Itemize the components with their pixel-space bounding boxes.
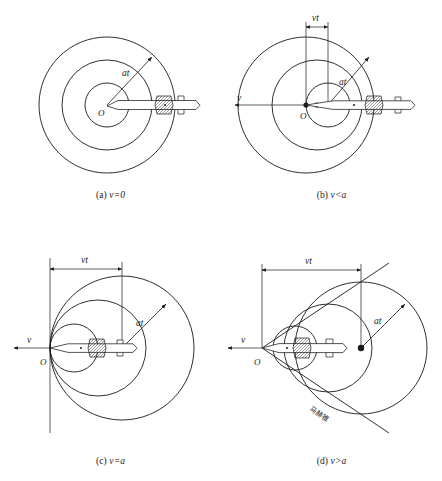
panel-d-caption-prefix: (d)	[317, 456, 328, 466]
panel-c-drawing: vt v at O	[0, 238, 221, 453]
panel-b-caption-prefix: (b)	[317, 190, 328, 200]
panel-d: vt v at 马赫锥 O (d) v>a	[221, 238, 442, 478]
origin-label: O	[300, 111, 307, 121]
aircraft-fuselage	[107, 101, 200, 110]
panel-b: vt v at O (b) v<a	[221, 0, 442, 240]
origin-label: O	[98, 108, 105, 118]
aircraft-center-dot	[164, 104, 166, 106]
aircraft-fuselage	[306, 101, 415, 110]
velocity-label-v: v	[241, 335, 246, 345]
distance-label-vt: vt	[81, 255, 88, 265]
radius-label-at: at	[339, 77, 347, 87]
aircraft-center-dot	[286, 347, 288, 349]
panel-c-caption-expr: v=a	[109, 456, 125, 466]
aircraft-icon	[50, 339, 137, 357]
aircraft-main-wing	[365, 96, 383, 114]
panel-d-caption: (d) v>a	[221, 456, 442, 466]
panel-c-caption-prefix: (c)	[96, 456, 107, 466]
origin-label: O	[40, 357, 47, 367]
distance-label-vt: vt	[312, 13, 319, 23]
mach-cone-label: 马赫锥	[308, 404, 330, 423]
panel-c-caption: (c) v=a	[0, 456, 221, 466]
origin-label: O	[254, 357, 261, 367]
aircraft-icon	[306, 96, 415, 114]
velocity-label-v: v	[27, 335, 32, 345]
aircraft-icon	[107, 96, 200, 114]
aircraft-main-wing	[293, 338, 311, 358]
radius-label-at: at	[122, 68, 130, 78]
panel-b-caption: (b) v<a	[221, 190, 442, 200]
radius-arrow-line	[361, 304, 405, 348]
panel-a-drawing: at O	[0, 0, 221, 215]
panel-d-caption-expr: v>a	[331, 456, 347, 466]
panel-a-caption-expr: v=0	[109, 190, 125, 200]
aircraft-main-wing	[88, 339, 106, 357]
panel-d-drawing: vt v at 马赫锥 O	[221, 238, 442, 453]
aircraft-icon	[262, 338, 347, 358]
radius-label-at: at	[136, 318, 144, 328]
source-position-current	[358, 345, 364, 351]
panel-b-drawing: vt v at O	[221, 0, 442, 215]
panel-a-caption: (a) v=0	[0, 190, 221, 200]
panel-a-caption-prefix: (a)	[96, 190, 107, 200]
figure-root: at O (a) v=0	[0, 0, 442, 481]
aircraft-center-dot	[80, 347, 82, 349]
aircraft-center-dot	[353, 104, 355, 106]
panel-a: at O (a) v=0	[0, 0, 221, 240]
panel-b-caption-expr: v<a	[331, 190, 347, 200]
radius-label-at: at	[374, 316, 382, 326]
velocity-label-v: v	[237, 93, 242, 103]
panel-c: vt v at O (c) v=a	[0, 238, 221, 478]
distance-label-vt: vt	[305, 256, 312, 266]
